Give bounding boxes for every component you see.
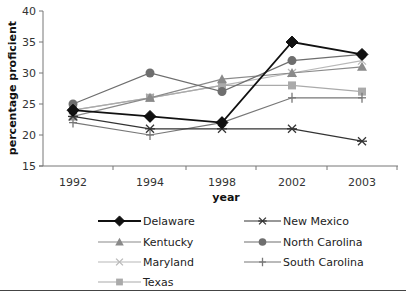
legend-label: Delaware (143, 215, 195, 228)
diamond-marker-icon (67, 104, 79, 116)
y-axis-title: percentage proficient (6, 21, 19, 155)
x-tick-label: 2003 (348, 176, 376, 189)
circle-marker-icon (259, 238, 267, 246)
legend: DelawareNew MexicoKentuckyNorth Carolina… (98, 215, 364, 289)
series-kentucky (68, 62, 367, 121)
x-tick-label: 1994 (136, 176, 164, 189)
triangle-marker-icon (357, 62, 367, 71)
y-tick-label: 35 (22, 36, 36, 49)
asterisk-marker-icon (357, 137, 367, 145)
y-tick-label: 30 (22, 67, 36, 80)
y-tick-label: 25 (22, 98, 36, 111)
series-north-carolina (69, 50, 367, 109)
x-tick-label: 1998 (208, 176, 236, 189)
legend-item-north-carolina: North Carolina (244, 236, 363, 249)
legend-item-maryland: Maryland (98, 256, 194, 269)
divider (0, 290, 406, 291)
legend-label: Maryland (143, 256, 194, 269)
plus-marker-icon (259, 258, 266, 267)
plus-marker-icon (288, 93, 296, 103)
diamond-marker-icon (356, 48, 368, 60)
legend-label: Kentucky (143, 236, 194, 249)
y-tick-label: 40 (22, 5, 36, 18)
circle-marker-icon (288, 56, 297, 65)
legend-label: New Mexico (283, 215, 349, 228)
legend-item-kentucky: Kentucky (98, 236, 194, 249)
legend-label: South Carolina (283, 256, 364, 269)
square-marker-icon (116, 279, 123, 286)
x-axis-title: year (212, 191, 240, 204)
series-south-carolina (69, 93, 366, 140)
series-maryland (69, 57, 366, 115)
circle-marker-icon (146, 69, 155, 78)
legend-item-new-mexico: New Mexico (244, 215, 349, 228)
y-tick-label: 15 (22, 160, 36, 173)
legend-item-south-carolina: South Carolina (244, 256, 364, 269)
square-marker-icon (288, 81, 296, 89)
diamond-marker-icon (114, 216, 124, 226)
legend-label: Texas (142, 276, 174, 289)
asterisk-marker-icon (258, 218, 267, 225)
x-tick-label: 2002 (278, 176, 306, 189)
legend-label: North Carolina (283, 236, 363, 249)
x-tick-label: 1992 (59, 176, 87, 189)
plot-lines (67, 36, 368, 145)
line-chart: 15202530354019921994199820022003yearperc… (0, 0, 406, 301)
asterisk-marker-icon (287, 125, 297, 133)
legend-item-delaware: Delaware (98, 215, 195, 228)
diamond-marker-icon (144, 110, 156, 122)
axes: 15202530354019921994199820022003yearperc… (6, 5, 398, 204)
y-tick-label: 20 (22, 129, 36, 142)
circle-marker-icon (218, 87, 227, 96)
legend-item-texas: Texas (98, 276, 174, 289)
